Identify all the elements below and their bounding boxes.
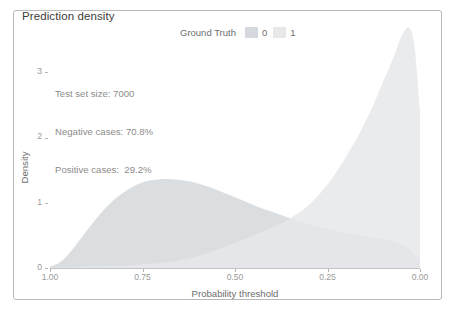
chart-legend: Ground Truth 0 1	[180, 27, 296, 38]
legend-entry-0[interactable]: 0	[245, 27, 267, 38]
annotation-line-negative-cases: Negative cases: 70.8%	[55, 126, 153, 139]
legend-swatch-0	[245, 27, 258, 38]
legend-entry-1[interactable]: 1	[273, 27, 295, 38]
annotation-line-test-set-size: Test set size: 7000	[55, 88, 153, 101]
chart-title: Prediction density	[22, 10, 115, 22]
legend-label-1: 1	[290, 27, 295, 38]
legend-title: Ground Truth	[180, 27, 236, 38]
chart-annotation: Test set size: 7000 Negative cases: 70.8…	[55, 63, 153, 189]
legend-label-0: 0	[262, 27, 267, 38]
legend-swatch-1	[273, 27, 286, 38]
annotation-line-positive-cases: Positive cases: 29.2%	[55, 164, 153, 177]
